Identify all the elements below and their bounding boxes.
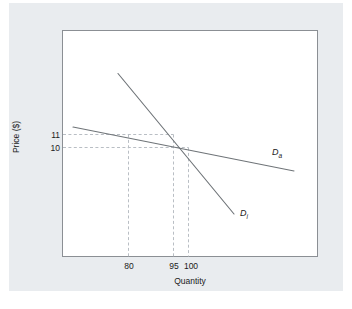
curve-label-inelastic-sub: i bbox=[247, 213, 248, 220]
guide-lines-vertical bbox=[129, 135, 189, 257]
demand-curve-inelastic bbox=[118, 74, 234, 215]
curve-label-inelastic: Di bbox=[240, 208, 248, 220]
curve-label-elastic-sub: a bbox=[279, 152, 283, 159]
ytick-label-10: 10 bbox=[44, 143, 60, 153]
x-axis-title: Quantity bbox=[130, 276, 250, 286]
ytick-label-11: 11 bbox=[44, 130, 60, 140]
xtick-label-80: 80 bbox=[118, 261, 140, 271]
demand-curve-elastic bbox=[73, 127, 294, 171]
y-axis-title: Price ($) bbox=[11, 109, 21, 165]
figure-root: 11 10 80 95 100 Price ($) Quantity Da Di bbox=[0, 0, 352, 309]
curve-label-elastic: Da bbox=[272, 147, 282, 159]
xtick-label-100: 100 bbox=[180, 261, 202, 271]
